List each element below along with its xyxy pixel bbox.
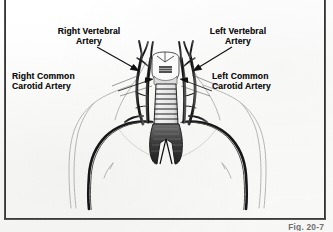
figure-page: Right Vertebral Artery Left Vertebral Ar… <box>0 0 333 232</box>
figure-caption: Fig. 20-7 <box>262 222 324 231</box>
label-right-carotid-line1: Right Common <box>12 71 116 81</box>
frame-rule-left <box>4 0 6 220</box>
label-left-vertebral-artery: Left Vertebral Artery <box>196 26 280 46</box>
thyroid-cartilage <box>152 52 179 87</box>
label-right-common-carotid-artery: Right Common Carotid Artery <box>12 71 116 91</box>
left-vertebral-vessel <box>189 55 195 124</box>
right-common-carotid-vessel <box>147 58 151 122</box>
label-left-common-carotid-artery: Left Common Carotid Artery <box>212 71 322 91</box>
arrowhead-left-vertebral <box>193 65 201 71</box>
label-left-carotid-line2: Carotid Artery <box>212 81 322 91</box>
leader-left-vertebral <box>196 47 232 69</box>
label-right-vertebral-line2: Artery <box>47 36 131 46</box>
left-common-carotid-vessel <box>181 58 185 122</box>
frame-rule-right <box>324 0 326 220</box>
aortic-arch <box>150 124 183 164</box>
frame-rule-bottom <box>4 218 326 220</box>
label-right-vertebral-line1: Right Vertebral <box>47 26 131 36</box>
leader-right-vertebral <box>97 47 136 69</box>
label-right-vertebral-artery: Right Vertebral Artery <box>47 26 131 46</box>
trachea <box>154 84 178 124</box>
label-left-vertebral-line1: Left Vertebral <box>196 26 280 36</box>
label-left-carotid-line1: Left Common <box>212 71 322 81</box>
label-right-carotid-line2: Carotid Artery <box>12 81 116 91</box>
arrowhead-right-vertebral <box>130 65 138 71</box>
label-left-vertebral-line2: Artery <box>196 36 280 46</box>
